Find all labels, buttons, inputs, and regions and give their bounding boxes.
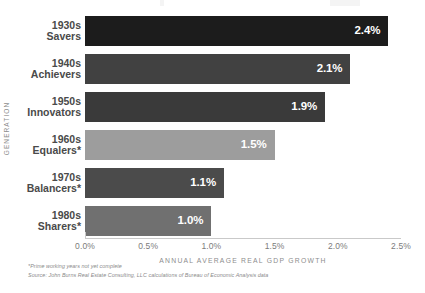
bar-1980s: 1.0% — [85, 206, 211, 236]
bar-value-label: 2.1% — [317, 63, 351, 75]
category-name: Balancers* — [27, 183, 81, 194]
bar-row: 1980sSharers*1.0% — [85, 206, 425, 236]
category-name: Sharers* — [38, 221, 81, 232]
crop-artifact — [330, 0, 360, 6]
bar-row: 1960sEqualers*1.5% — [85, 130, 425, 160]
category-label-1960s: 1960sEqualers* — [1, 130, 81, 160]
category-name: Savers — [47, 31, 81, 42]
footnote-asterisk: *Prime working years not yet complete — [28, 262, 368, 271]
bar-1930s: 2.4% — [85, 16, 388, 46]
footnotes: *Prime working years not yet complete So… — [28, 262, 368, 280]
bar-1950s: 1.9% — [85, 92, 325, 122]
category-label-1930s: 1930sSavers — [1, 16, 81, 46]
category-name: Innovators — [27, 107, 81, 118]
bar-row: 1970sBalancers*1.1% — [85, 168, 425, 198]
bar-rows: 1930sSavers2.4%1940sAchievers2.1%1950sIn… — [85, 12, 425, 238]
plot-area: 1930sSavers2.4%1940sAchievers2.1%1950sIn… — [85, 12, 425, 238]
bar-value-label: 2.4% — [355, 25, 389, 37]
x-tick-label: 1.5% — [265, 241, 285, 251]
x-tick-label: 2.5% — [391, 241, 411, 251]
bar-1970s: 1.1% — [85, 168, 224, 198]
x-axis-tick-labels: 0.0%0.5%1.0%1.5%2.0%2.5% — [85, 241, 425, 255]
bar-row: 1940sAchievers2.1% — [85, 54, 425, 84]
x-tick-label: 0.0% — [75, 241, 95, 251]
category-label-1940s: 1940sAchievers — [1, 54, 81, 84]
x-axis-line — [85, 238, 401, 239]
x-tick-label: 0.5% — [138, 241, 158, 251]
footnote-source: Source: John Burns Real Estate Consultin… — [28, 271, 368, 280]
gdp-growth-bar-chart: GENERATION 1930sSavers2.4%1940sAchievers… — [0, 0, 425, 293]
bar-value-label: 1.5% — [241, 139, 275, 151]
bar-1960s: 1.5% — [85, 130, 275, 160]
bar-row: 1950sInnovators1.9% — [85, 92, 425, 122]
bar-value-label: 1.1% — [190, 177, 224, 189]
crop-artifact — [160, 0, 164, 6]
x-tick-label: 2.0% — [328, 241, 348, 251]
bar-value-label: 1.0% — [178, 215, 212, 227]
category-name: Achievers — [31, 69, 81, 80]
category-label-1950s: 1950sInnovators — [1, 92, 81, 122]
x-tick-label: 1.0% — [202, 241, 222, 251]
bar-1940s: 2.1% — [85, 54, 350, 84]
category-label-1970s: 1970sBalancers* — [1, 168, 81, 198]
category-label-1980s: 1980sSharers* — [1, 206, 81, 236]
bar-row: 1930sSavers2.4% — [85, 16, 425, 46]
bar-value-label: 1.9% — [291, 101, 325, 113]
category-name: Equalers* — [33, 145, 81, 156]
